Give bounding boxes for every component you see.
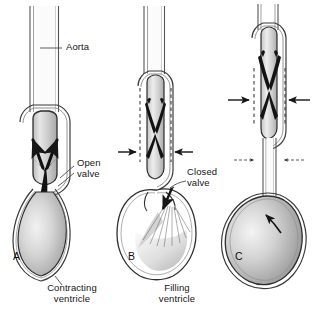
diagram-canvas: [0, 0, 332, 314]
panel-a-group: [13, 6, 74, 285]
panel-letter-b: B: [128, 250, 135, 262]
panel-c-group: [222, 4, 311, 289]
panel-a-aorta: [30, 6, 59, 112]
panel-a-caption: Contracting ventricle: [47, 283, 97, 304]
closed-valve-leader: [170, 181, 186, 188]
panel-letter-a: A: [13, 250, 20, 262]
closed-valve-label: Closed valve: [187, 167, 217, 188]
panel-c-aorta-lower: [263, 138, 276, 196]
panel-c-ventricle-relaxed: [222, 193, 307, 289]
panel-letter-c: C: [235, 250, 243, 262]
open-valve-leader-2: [58, 173, 74, 186]
panel-b-aorta: [144, 6, 165, 74]
panel-b-caption: Filling ventricle: [159, 283, 195, 304]
aortic-valve-diagram: Aorta Open valve Closed valve A B C Cont…: [0, 0, 332, 314]
aorta-label: Aorta: [66, 42, 89, 53]
panel-b-ventricle-filling: [117, 188, 196, 280]
panel-b-group: [117, 6, 196, 280]
open-valve-label: Open valve: [77, 158, 101, 179]
panel-a-ventricle-contracting: [13, 189, 70, 281]
